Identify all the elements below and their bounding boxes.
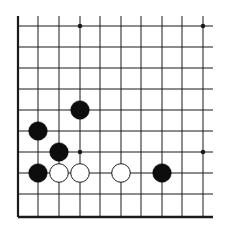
black-stone (50, 143, 69, 162)
black-stone (29, 164, 48, 183)
star-point-icon (78, 24, 83, 29)
black-stone (29, 122, 48, 141)
go-board (0, 0, 227, 233)
star-point-icon (78, 150, 83, 155)
board-grid (18, 16, 213, 217)
black-stone (153, 164, 172, 183)
white-stone (50, 164, 69, 183)
star-point-icon (201, 24, 206, 29)
star-point-icon (201, 150, 206, 155)
white-stone (112, 164, 131, 183)
white-stone (71, 164, 90, 183)
black-stone (71, 101, 90, 120)
